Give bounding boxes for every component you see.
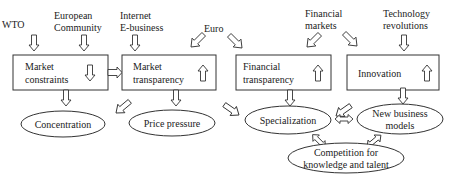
driver-technology-label-2: revolutions bbox=[383, 20, 428, 31]
outcome-price-pressure: Price pressure bbox=[129, 110, 215, 136]
outcome-label-2: models bbox=[386, 120, 415, 131]
driver-financial-markets: Financial markets bbox=[303, 8, 342, 51]
arrow-down-right-icon bbox=[225, 31, 246, 52]
arrow-down-icon bbox=[171, 90, 181, 106]
box-label-1: Innovation bbox=[358, 68, 401, 79]
arrow-down-right-icon bbox=[340, 29, 361, 50]
outcome-label: Price pressure bbox=[144, 118, 201, 129]
driver-financial-label-2: markets bbox=[305, 20, 337, 31]
box-label-1: Market bbox=[25, 61, 54, 72]
arrow-down-icon bbox=[399, 35, 409, 51]
box-market-constraints: Market constraints bbox=[13, 55, 108, 90]
outcome-label-1: Competition for bbox=[314, 147, 379, 158]
arrow-right-icon bbox=[108, 67, 122, 78]
arrow-down-icon bbox=[79, 35, 89, 51]
arrow-down-icon bbox=[61, 90, 71, 106]
driver-internet: Internet E-business bbox=[120, 10, 163, 51]
driver-technology-label-1: Technology bbox=[383, 8, 430, 19]
box-innovation: Innovation bbox=[347, 55, 439, 90]
arrow-down-left-icon bbox=[112, 97, 133, 117]
arrow-down-icon bbox=[130, 35, 140, 51]
driver-internet-label-2: E-business bbox=[120, 22, 163, 33]
outcome-label: Specialization bbox=[260, 115, 317, 126]
driver-european-label-1: European bbox=[54, 10, 92, 21]
driver-euro-label: Euro bbox=[204, 23, 223, 34]
driver-financial-label-1: Financial bbox=[305, 8, 342, 19]
driver-diagram: WTO European Community Internet E-busine… bbox=[0, 0, 455, 188]
box-financial-transparency: Financial transparency bbox=[236, 55, 331, 90]
outcome-concentration: Concentration bbox=[21, 111, 105, 137]
outcome-label: Concentration bbox=[35, 119, 92, 130]
outcome-competition: Competition for knowledge and talent bbox=[288, 143, 404, 173]
box-market-transparency: Market transparency bbox=[122, 55, 216, 90]
outcome-label-2: knowledge and talent bbox=[303, 159, 389, 170]
arrow-down-icon bbox=[285, 90, 295, 106]
driver-euro: Euro bbox=[187, 23, 246, 52]
arrow-down-right-icon bbox=[221, 100, 242, 119]
outcome-specialization: Specialization bbox=[245, 106, 331, 134]
driver-wto: WTO bbox=[2, 19, 39, 51]
box-label-2: transparency bbox=[243, 74, 294, 85]
driver-european-community: European Community bbox=[54, 10, 102, 51]
arrow-down-icon bbox=[29, 35, 39, 51]
box-label-1: Market bbox=[133, 61, 162, 72]
driver-technology: Technology revolutions bbox=[340, 8, 430, 51]
driver-wto-label: WTO bbox=[2, 19, 25, 30]
outcome-label-1: New business bbox=[372, 108, 427, 119]
arrow-down-left-icon bbox=[303, 30, 324, 51]
box-label-2: transparency bbox=[133, 74, 184, 85]
driver-internet-label-1: Internet bbox=[120, 10, 151, 21]
box-label-2: constraints bbox=[25, 74, 68, 85]
outcome-new-business-models: New business models bbox=[357, 104, 443, 134]
driver-european-label-2: Community bbox=[54, 22, 102, 33]
box-label-1: Financial bbox=[243, 61, 280, 72]
